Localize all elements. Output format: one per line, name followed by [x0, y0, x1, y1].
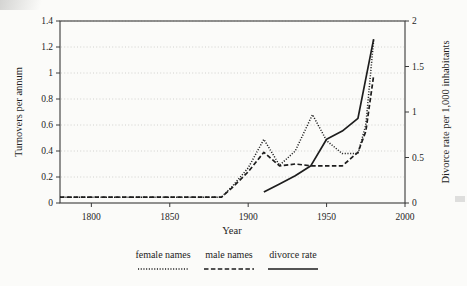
- plot-frame: [60, 21, 405, 203]
- series-line-divorce-rate: [264, 39, 374, 192]
- y-axis-ticks: 00.20.40.60.811.21.4: [41, 16, 60, 208]
- x-tick-label: 1800: [82, 212, 101, 222]
- y2-tick-label: 0.5: [412, 153, 424, 163]
- plot-border: [60, 21, 405, 203]
- legend-label-divorce-rate: divorce rate: [269, 249, 317, 260]
- x-tick-label: 1850: [160, 212, 179, 222]
- y-axis-title: Turnovers per annum: [13, 67, 24, 157]
- x-axis-title: Year: [222, 225, 242, 236]
- y-tick-label: 1.2: [41, 42, 53, 52]
- legend-label-female-names: female names: [135, 249, 190, 260]
- x-tick-label: 1950: [317, 212, 336, 222]
- y-tick-label: 0.8: [41, 94, 53, 104]
- y2-tick-label: 1: [412, 107, 417, 117]
- y2-axis-ticks: 00.511.52: [405, 16, 424, 208]
- chart-figure: 00.20.40.60.811.21.4 00.511.52 180018501…: [0, 0, 467, 286]
- y2-tick-label: 1.5: [412, 62, 424, 72]
- chart-legend: female namesmale namesdivorce rate: [135, 249, 318, 269]
- y-tick-label: 1.4: [41, 16, 53, 26]
- x-axis-ticks: 18001850190019502000: [82, 203, 415, 222]
- y-tick-label: 0: [48, 198, 53, 208]
- series-line-male-names: [60, 76, 374, 198]
- gridlines: [61, 21, 404, 177]
- data-series-layer: [60, 39, 374, 197]
- legend-label-male-names: male names: [205, 249, 253, 260]
- y-tick-label: 1: [48, 68, 53, 78]
- line-chart: 00.20.40.60.811.21.4 00.511.52 180018501…: [0, 0, 467, 286]
- y2-axis-title: Divorce rate per 1,000 inhabitants: [440, 40, 451, 183]
- x-tick-label: 2000: [396, 212, 415, 222]
- y2-tick-label: 2: [412, 16, 417, 26]
- series-line-female-names: [60, 41, 374, 198]
- y2-tick-label: 0: [412, 198, 417, 208]
- y-tick-label: 0.6: [41, 120, 53, 130]
- x-tick-label: 1900: [239, 212, 258, 222]
- y-tick-label: 0.4: [41, 146, 53, 156]
- y-tick-label: 0.2: [41, 172, 53, 182]
